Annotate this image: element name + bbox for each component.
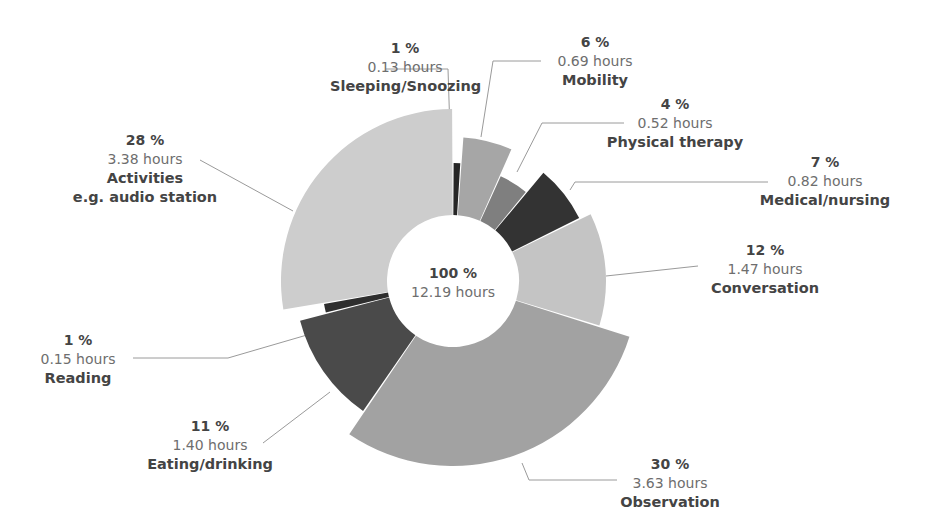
label-medical-nursing: 7 % 0.82 hours Medical/nursing: [750, 153, 900, 210]
label-hours: 3.38 hours: [70, 150, 220, 169]
label-percent: 4 %: [600, 95, 750, 114]
label-percent: 30 %: [605, 455, 735, 474]
label-reading: 1 % 0.15 hours Reading: [28, 331, 128, 388]
center-total: 100 % 12.19 hours: [393, 264, 513, 302]
label-hours: 0.15 hours: [28, 350, 128, 369]
label-percent: 12 %: [690, 241, 840, 260]
center-total-hours: 12.19 hours: [393, 283, 513, 302]
label-mobility: 6 % 0.69 hours Mobility: [530, 33, 660, 90]
label-observation: 30 % 3.63 hours Observation: [605, 455, 735, 512]
label-category: Activities: [70, 169, 220, 188]
label-hours: 3.63 hours: [605, 474, 735, 493]
label-hours: 1.47 hours: [690, 260, 840, 279]
label-percent: 6 %: [530, 33, 660, 52]
leader-line: [570, 182, 768, 190]
label-category: Conversation: [690, 279, 840, 298]
label-physical-therapy: 4 % 0.52 hours Physical therapy: [600, 95, 750, 152]
label-hours: 0.52 hours: [600, 114, 750, 133]
leader-line: [133, 328, 331, 358]
label-hours: 0.82 hours: [750, 172, 900, 191]
label-category: Eating/drinking: [140, 455, 280, 474]
label-percent: 28 %: [70, 131, 220, 150]
label-sleeping: 1 % 0.13 hours Sleeping/Snoozing: [330, 39, 480, 96]
leader-line: [606, 266, 698, 276]
center-total-percent: 100 %: [393, 264, 513, 283]
label-hours: 0.69 hours: [530, 52, 660, 71]
label-percent: 1 %: [330, 39, 480, 58]
label-eating-drinking: 11 % 1.40 hours Eating/drinking: [140, 417, 280, 474]
label-hours: 0.13 hours: [330, 58, 480, 77]
label-percent: 1 %: [28, 331, 128, 350]
label-category: Mobility: [530, 71, 660, 90]
label-category-line2: e.g. audio station: [70, 188, 220, 207]
label-percent: 11 %: [140, 417, 280, 436]
label-category: Medical/nursing: [750, 191, 900, 210]
label-category: Observation: [605, 493, 735, 512]
label-category: Physical therapy: [600, 133, 750, 152]
label-category: Reading: [28, 369, 128, 388]
label-category: Sleeping/Snoozing: [330, 77, 480, 96]
label-hours: 1.40 hours: [140, 436, 280, 455]
label-percent: 7 %: [750, 153, 900, 172]
leader-line: [522, 463, 617, 480]
label-conversation: 12 % 1.47 hours Conversation: [690, 241, 840, 298]
label-activities: 28 % 3.38 hours Activities e.g. audio st…: [70, 131, 220, 207]
